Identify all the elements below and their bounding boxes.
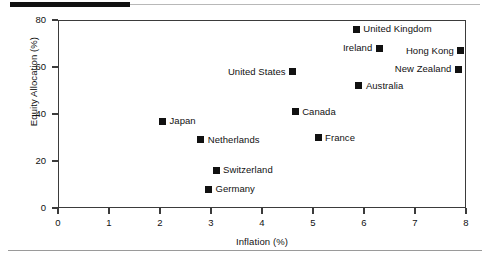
data-point-label: Switzerland [223,164,273,175]
x-axis-title: Inflation (%) [58,236,466,247]
data-point-marker [213,167,220,174]
plot-frame [58,20,466,208]
data-point-label: New Zealand [395,63,452,74]
data-point-marker [292,108,299,115]
x-tick-mark-0 [57,208,58,214]
data-point-marker [205,186,212,193]
x-tick-label-0: 0 [46,218,70,228]
data-point-marker [355,82,362,89]
data-point-label: Ireland [343,42,372,53]
x-tick-label-8: 8 [454,218,478,228]
data-point-label: Canada [302,106,336,117]
data-point-label: Australia [366,80,403,91]
x-tick-label-1: 1 [97,218,121,228]
y-tick-label-80: 80 [6,15,46,25]
x-tick-mark-8 [465,208,466,214]
data-point-marker [289,68,296,75]
x-tick-label-7: 7 [403,218,427,228]
y-tick-mark-60 [52,66,58,67]
data-point-marker [457,47,464,54]
x-tick-mark-6 [363,208,364,214]
x-tick-mark-2 [159,208,160,214]
y-tick-mark-20 [52,160,58,161]
y-tick-label-20: 20 [6,156,46,166]
y-axis-title: Equity Allocation (%) [28,0,39,177]
x-tick-label-4: 4 [250,218,274,228]
x-tick-label-3: 3 [199,218,223,228]
data-point-marker [197,136,204,143]
x-tick-label-6: 6 [352,218,376,228]
y-tick-label-40: 40 [6,109,46,119]
x-tick-mark-5 [312,208,313,214]
data-point-marker [455,66,462,73]
y-tick-label-60: 60 [6,62,46,72]
data-point-label: France [325,132,355,143]
data-point-marker [376,45,383,52]
scatter-chart: Equity Allocation (%) Inflation (%) 0204… [0,0,489,263]
data-point-marker [159,118,166,125]
data-point-label: Hong Kong [406,45,454,56]
data-point-label: Japan [170,115,196,126]
data-point-label: United Kingdom [363,23,431,34]
data-point-label: United States [228,66,286,77]
y-tick-mark-80 [52,19,58,20]
x-tick-mark-7 [414,208,415,214]
data-point-marker [353,26,360,33]
y-tick-label-0: 0 [6,203,46,213]
data-point-label: Germany [215,183,254,194]
x-tick-mark-3 [210,208,211,214]
bottom-rule [8,250,482,251]
data-point-label: Netherlands [208,134,260,145]
x-tick-label-2: 2 [148,218,172,228]
x-tick-mark-1 [108,208,109,214]
x-tick-label-5: 5 [301,218,325,228]
y-tick-mark-40 [52,113,58,114]
data-point-marker [315,134,322,141]
x-tick-mark-4 [261,208,262,214]
